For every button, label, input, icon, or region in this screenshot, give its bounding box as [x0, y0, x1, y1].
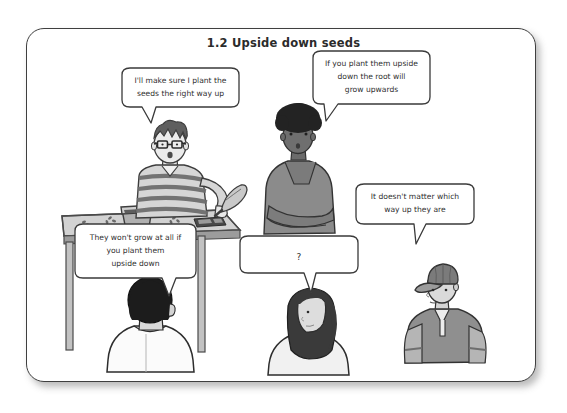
character-student-long-hair-back	[268, 288, 349, 375]
speech-bubble-teacher[interactable]: I'll make sure I plant the seeds the rig…	[122, 68, 239, 123]
bubble-long-hair-line-1: ?	[297, 252, 302, 262]
bubble-teacher-line-2: seeds the right way up	[137, 89, 224, 98]
character-student-afro-hair	[264, 103, 335, 234]
seed-tray	[194, 217, 226, 227]
speech-bubble-afro-student[interactable]: If you plant them upside down the root w…	[313, 51, 430, 121]
bubble-cap-line-1: It doesn't matter which	[371, 192, 460, 201]
cartoon-illustration: I'll make sure I plant the seeds the rig…	[26, 28, 536, 382]
speech-bubble-long-hair-student[interactable]: ?	[240, 236, 358, 293]
bubble-teacher-line-1: I'll make sure I plant the	[135, 76, 227, 85]
speech-bubble-cap-student[interactable]: It doesn't matter which way up they are	[356, 184, 474, 244]
concept-cartoon-scene: 1.2 Upside down seeds	[0, 0, 567, 413]
bubble-short-hair-line-2: you plant them	[106, 246, 164, 255]
character-student-short-hair-back	[107, 277, 194, 372]
bubble-afro-line-3: grow upwards	[345, 85, 398, 94]
bubble-short-hair-line-1: They won't grow at all if	[89, 233, 182, 242]
bubble-afro-line-2: down the root will	[338, 72, 406, 81]
character-teacher-with-glasses	[136, 120, 228, 218]
character-student-baseball-cap	[404, 264, 486, 363]
bubble-afro-line-1: If you plant them upside	[325, 59, 418, 68]
bubble-short-hair-line-3: upside down	[111, 259, 159, 268]
bubble-cap-line-2: way up they are	[384, 205, 446, 214]
